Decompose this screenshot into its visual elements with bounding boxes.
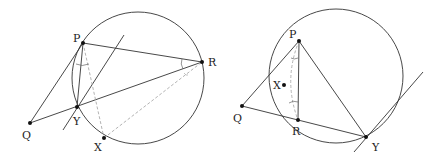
right-point-Y bbox=[364, 135, 368, 139]
left-circle bbox=[72, 12, 204, 144]
geometry-diagram: P R Y Q X bbox=[0, 0, 440, 162]
left-segment-PY bbox=[77, 43, 83, 107]
right-points bbox=[240, 39, 368, 139]
right-segment-PR bbox=[298, 41, 299, 120]
right-label-Y: Y bbox=[371, 141, 380, 154]
left-point-Q bbox=[28, 121, 32, 125]
left-angle-arc-R bbox=[181, 59, 183, 69]
right-tangent-line bbox=[354, 72, 423, 152]
right-label-R: R bbox=[292, 125, 301, 138]
left-label-P: P bbox=[73, 32, 81, 45]
left-labels: P R Y Q X bbox=[22, 32, 217, 154]
right-figure bbox=[242, 9, 423, 152]
right-label-X: X bbox=[273, 79, 281, 92]
left-label-X: X bbox=[94, 141, 102, 154]
left-points bbox=[28, 41, 204, 140]
left-label-R: R bbox=[208, 56, 217, 69]
diagram-svg: P R Y Q X bbox=[0, 0, 440, 162]
left-point-Y bbox=[75, 105, 79, 109]
right-point-X bbox=[282, 83, 286, 87]
right-point-R bbox=[296, 118, 300, 122]
right-point-P bbox=[297, 39, 301, 43]
left-segment-PR bbox=[83, 43, 202, 62]
left-label-Y: Y bbox=[72, 115, 81, 128]
right-angle-arc-P bbox=[291, 58, 298, 59]
right-label-P: P bbox=[289, 28, 297, 41]
left-dashed-XR bbox=[104, 62, 202, 138]
left-point-R bbox=[200, 60, 204, 64]
left-point-X bbox=[102, 136, 106, 140]
left-dashed-PX bbox=[83, 43, 104, 138]
left-label-Q: Q bbox=[22, 129, 31, 142]
right-angle-arc-R bbox=[289, 101, 298, 103]
left-point-P bbox=[81, 41, 85, 45]
right-segment-QP bbox=[242, 41, 299, 106]
right-label-Q: Q bbox=[233, 112, 242, 125]
left-segment-QR bbox=[30, 62, 202, 123]
right-point-Q bbox=[240, 104, 244, 108]
left-figure bbox=[30, 12, 204, 144]
left-angle-arc-P bbox=[76, 64, 89, 66]
